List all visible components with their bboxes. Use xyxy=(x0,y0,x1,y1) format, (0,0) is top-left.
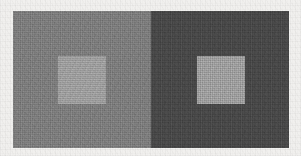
figure-canvas xyxy=(0,0,301,156)
light-surround-panel xyxy=(13,11,151,148)
target-square-on-dark-surround xyxy=(197,56,245,104)
grain-overlay-icon xyxy=(58,56,106,104)
target-square-on-light-surround xyxy=(58,56,106,104)
simultaneous-contrast-stimulus xyxy=(13,11,289,148)
grain-overlay-icon xyxy=(197,56,245,104)
dark-surround-panel xyxy=(151,11,289,148)
